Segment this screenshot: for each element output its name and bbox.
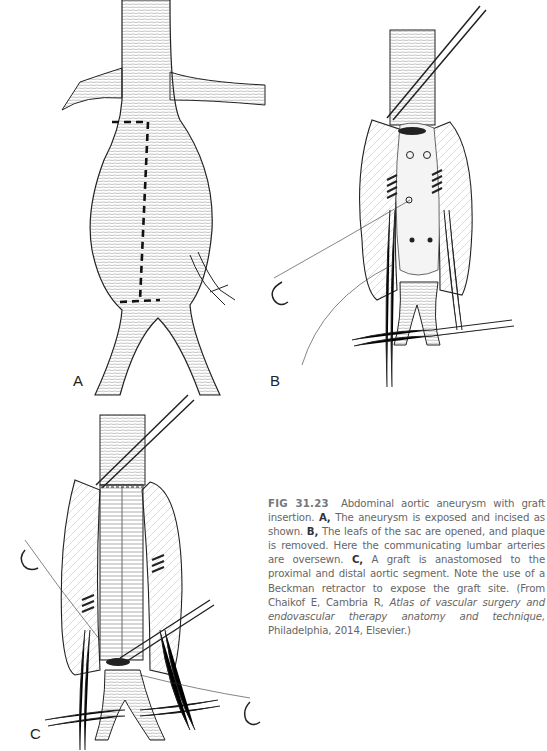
caption-part-a-label: A, xyxy=(319,512,331,523)
graft-drawing xyxy=(0,390,270,751)
figure-number: FIG 31.23 xyxy=(268,498,329,509)
panel-label-a: A xyxy=(73,373,83,388)
figure-caption: FIG 31.23 Abdominal aortic aneurysm with… xyxy=(268,497,545,638)
panel-label-b: B xyxy=(270,373,280,388)
panel-a-illustration: A xyxy=(40,0,270,400)
caption-part-c-label: C, xyxy=(352,554,363,565)
panel-c-illustration: C xyxy=(0,390,270,751)
caption-source-suffix: Philadelphia, 2014, Elsevier.) xyxy=(268,625,411,636)
caption-part-b-label: B, xyxy=(307,526,318,537)
panel-b-illustration: B xyxy=(262,0,547,400)
aneurysm-drawing xyxy=(40,0,270,400)
opened-sac-drawing xyxy=(262,0,547,400)
panel-label-c: C xyxy=(30,726,41,741)
